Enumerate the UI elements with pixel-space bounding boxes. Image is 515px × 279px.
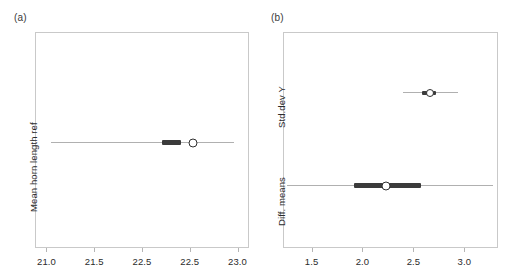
x-tick-mark bbox=[238, 248, 239, 252]
x-tick-label: 21.5 bbox=[85, 256, 104, 267]
panel-b-row-label: Diff. means bbox=[276, 177, 287, 226]
point-estimate-marker bbox=[188, 138, 197, 147]
x-tick-mark bbox=[142, 248, 143, 252]
x-tick-label: 21.0 bbox=[37, 256, 56, 267]
panel-b-row-label: Std.dev Y bbox=[276, 86, 287, 128]
point-estimate-marker bbox=[426, 89, 434, 97]
panel-b-label: (b) bbox=[271, 12, 284, 23]
panel-a-plot-area bbox=[35, 32, 249, 248]
point-estimate-marker bbox=[381, 181, 390, 190]
x-tick-label: 1.5 bbox=[305, 256, 319, 267]
x-tick-label: 2.5 bbox=[407, 256, 421, 267]
panel-a-label: (a) bbox=[14, 12, 27, 23]
x-tick-label: 3.0 bbox=[458, 256, 472, 267]
x-tick-mark bbox=[413, 248, 414, 252]
x-tick-label: 2.0 bbox=[356, 256, 370, 267]
figure-panel-group: (a) Mean horn length ref 21.021.522.522.… bbox=[0, 0, 515, 279]
x-tick-mark bbox=[94, 248, 95, 252]
panel-b-plot-area bbox=[283, 32, 498, 248]
x-tick-mark bbox=[190, 248, 191, 252]
panel-a-y-axis-title: Mean horn length ref bbox=[28, 122, 39, 212]
x-tick-label: 22.5 bbox=[180, 256, 199, 267]
x-tick-label: 23.0 bbox=[228, 256, 247, 267]
x-tick-label: 22.5 bbox=[133, 256, 152, 267]
x-tick-mark bbox=[312, 248, 313, 252]
confidence-interval-outer bbox=[51, 142, 233, 143]
panel-a: (a) Mean horn length ref 21.021.522.522.… bbox=[0, 0, 258, 279]
x-tick-mark bbox=[362, 248, 363, 252]
x-tick-mark bbox=[464, 248, 465, 252]
confidence-interval-inner bbox=[162, 140, 181, 145]
panel-b: (b) Std.dev YDiff. means 1.52.02.53.0 bbox=[257, 0, 515, 279]
x-tick-mark bbox=[46, 248, 47, 252]
